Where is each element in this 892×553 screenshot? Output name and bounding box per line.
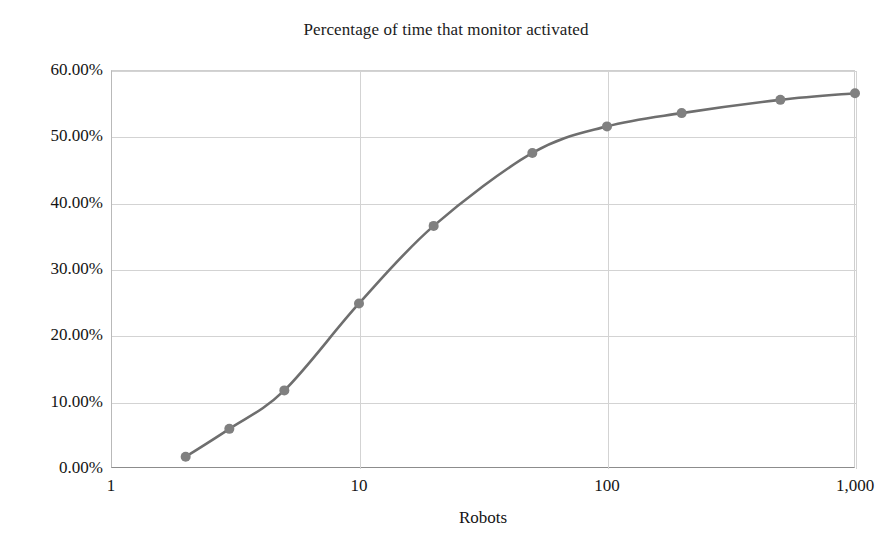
series-layer: 2: 1.70%3: 5.90%5: 11.70%10: 24.80%20: 3… (111, 70, 855, 468)
data-point-marker: 500: 55.50% (775, 95, 785, 105)
chart-container: Percentage of time that monitor activate… (0, 0, 892, 553)
y-axis-tick-label: 10.00% (3, 392, 103, 412)
gridline-vertical (856, 71, 857, 469)
data-point-marker: 1000: 56.50% (850, 88, 860, 98)
data-point-marker: 3: 5.90% (224, 424, 234, 434)
x-axis-tick-label: 100 (594, 476, 620, 496)
data-point-marker: 20: 36.50% (429, 221, 439, 231)
data-point-marker: 100: 51.50% (602, 121, 612, 131)
y-axis-tick-label: 30.00% (3, 259, 103, 279)
data-point-marker: 50: 47.50% (527, 148, 537, 158)
data-point-marker: 5: 11.70% (279, 385, 289, 395)
series-line (186, 93, 855, 457)
y-axis-tick-label: 0.00% (3, 458, 103, 478)
data-point-marker: 2: 1.70% (181, 452, 191, 462)
data-point-marker: 200: 53.50% (677, 108, 687, 118)
y-axis-tick-label: 50.00% (3, 126, 103, 146)
y-axis-tick-label: 60.00% (3, 60, 103, 80)
x-axis-tick-label: 1,000 (836, 476, 874, 496)
x-axis-tick-label: 10 (351, 476, 368, 496)
y-axis-tick-label: 40.00% (3, 193, 103, 213)
x-axis-title: Robots (111, 508, 855, 528)
data-point-marker: 10: 24.80% (354, 298, 364, 308)
x-axis-tick-label: 1 (107, 476, 116, 496)
chart-title: Percentage of time that monitor activate… (0, 20, 892, 40)
y-axis-tick-label: 20.00% (3, 325, 103, 345)
y-axis-tick-labels: 0.00%10.00%20.00%30.00%40.00%50.00%60.00… (0, 0, 103, 553)
